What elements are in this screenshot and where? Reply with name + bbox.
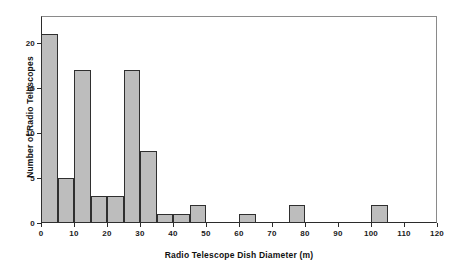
y-axis-tick-label: 0 [30, 219, 35, 228]
x-axis-tick-label: 40 [158, 229, 188, 238]
histogram-bar [107, 196, 124, 223]
x-axis-tick [41, 223, 42, 227]
histogram-bar [124, 70, 141, 223]
histogram-bar [371, 205, 388, 223]
x-axis-tick-label: 50 [191, 229, 221, 238]
histogram-bar [239, 214, 256, 223]
x-axis-tick-label: 100 [356, 229, 386, 238]
histogram-bar [74, 70, 91, 223]
x-axis-tick-label: 60 [224, 229, 254, 238]
x-axis-tick [272, 223, 273, 227]
x-axis-tick [305, 223, 306, 227]
x-axis-tick-label: 80 [290, 229, 320, 238]
histogram-figure: 05101520 0102030405060708090100110120 Ra… [0, 0, 461, 274]
x-axis-tick [239, 223, 240, 227]
histogram-bar [157, 214, 174, 223]
histogram-bar [190, 205, 207, 223]
histogram-bar [41, 34, 58, 223]
x-axis-tick [338, 223, 339, 227]
histogram-bar [91, 196, 108, 223]
histogram-bar [173, 214, 190, 223]
bars-layer [41, 16, 437, 223]
x-axis-tick [107, 223, 108, 227]
x-axis-tick-label: 10 [59, 229, 89, 238]
y-axis-tick [37, 133, 41, 134]
x-axis-tick [371, 223, 372, 227]
x-axis-tick-label: 110 [389, 229, 419, 238]
histogram-bar [58, 178, 75, 223]
y-axis-title: Number of Radio Telescopes [25, 27, 35, 207]
x-axis: 0102030405060708090100110120 [41, 223, 437, 243]
x-axis-title: Radio Telescope Dish Diameter (m) [41, 250, 437, 260]
y-axis: 05101520 [41, 16, 42, 223]
x-axis-tick-label: 70 [257, 229, 287, 238]
x-axis-tick [404, 223, 405, 227]
x-axis-tick-label: 120 [422, 229, 452, 238]
x-axis-tick-label: 30 [125, 229, 155, 238]
x-axis-tick [140, 223, 141, 227]
x-axis-tick-label: 90 [323, 229, 353, 238]
y-axis-tick [37, 88, 41, 89]
x-axis-tick [437, 223, 438, 227]
histogram-bar [140, 151, 157, 223]
y-axis-tick [37, 43, 41, 44]
x-axis-tick [173, 223, 174, 227]
x-axis-tick-label: 0 [26, 229, 56, 238]
y-axis-tick [37, 178, 41, 179]
x-axis-tick-label: 20 [92, 229, 122, 238]
histogram-bar [289, 205, 306, 223]
x-axis-tick [74, 223, 75, 227]
x-axis-tick [206, 223, 207, 227]
